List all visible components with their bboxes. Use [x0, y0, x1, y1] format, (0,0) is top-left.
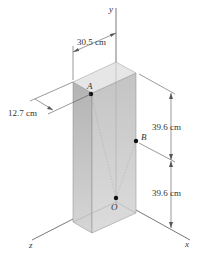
extension-line	[30, 82, 73, 101]
dimension-label-12-7: 12.7 cm	[8, 108, 37, 118]
point-B	[134, 139, 138, 143]
z-axis-label: z	[28, 240, 33, 250]
dimension-label-lower: 39.6 cm	[152, 188, 181, 198]
dimension-label-30-5: 30.5 cm	[77, 37, 106, 47]
x-axis	[136, 210, 190, 240]
box-left-face	[73, 82, 92, 233]
extension-line	[139, 143, 175, 162]
arrowhead	[169, 93, 173, 99]
arrowhead	[169, 161, 173, 167]
point-O-label: O	[111, 202, 118, 212]
arrowhead	[169, 222, 173, 228]
x-axis-label: x	[184, 239, 189, 249]
point-O	[114, 196, 118, 200]
z-axis	[32, 219, 73, 240]
point-A-label: A	[86, 81, 93, 91]
arrowhead	[73, 48, 79, 52]
point-B-label: B	[141, 132, 147, 142]
y-axis-label: y	[108, 4, 113, 14]
arrowhead	[110, 33, 116, 37]
extension-line	[139, 74, 175, 94]
dimension-label-upper: 39.6 cm	[152, 122, 181, 132]
box-diagram: y x z A B O 30.5 cm 12.7 cm 39.6 cm 39.6…	[0, 0, 198, 255]
